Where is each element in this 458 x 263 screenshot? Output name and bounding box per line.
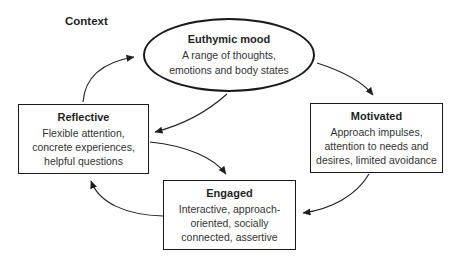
arrow-motivated-to-engaged (303, 174, 369, 213)
context-label: Context (65, 15, 108, 27)
node-euthymic-title: Euthymic mood (188, 33, 271, 45)
node-euthymic-mood: Euthymic mood A range of thoughts, emoti… (143, 18, 315, 92)
node-motivated: Motivated Approach impulses, attention t… (310, 103, 443, 173)
arrow-euthymic-to-motivated (317, 63, 373, 95)
node-reflective: Reflective Flexible attention, concrete … (18, 104, 149, 174)
arrow-reflective-to-engaged (150, 142, 226, 174)
node-motivated-description: Approach impulses, attention to needs an… (314, 125, 439, 167)
node-motivated-title: Motivated (351, 110, 402, 122)
cycle-diagram: Context Euthymic mood A range of thought… (0, 0, 458, 263)
node-reflective-title: Reflective (58, 111, 110, 123)
node-euthymic-description: A range of thoughts, emotions and body s… (161, 48, 297, 78)
node-engaged: Engaged Interactive, approach-oriented, … (163, 180, 296, 250)
arrow-reflective-to-euthymic (83, 57, 134, 102)
node-reflective-description: Flexible attention, concrete experiences… (22, 126, 145, 168)
node-engaged-description: Interactive, approach-oriented, socially… (167, 202, 292, 244)
node-engaged-title: Engaged (206, 187, 252, 199)
arrow-engaged-to-reflective (91, 181, 163, 216)
arrow-euthymic-to-reflective (155, 94, 227, 132)
